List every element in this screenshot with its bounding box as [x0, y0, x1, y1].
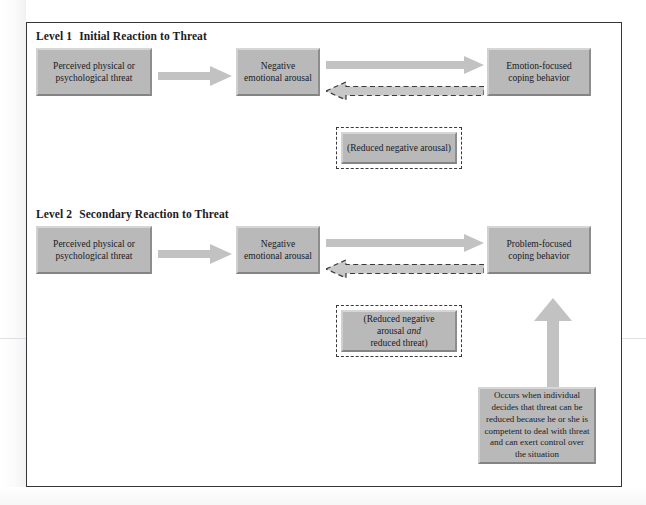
level-1-feedback-box: (Reduced negative arousal) [341, 132, 457, 164]
arrow-right-icon-level-2-forward-2 [326, 234, 484, 252]
arrow-up-icon-level-2-condition [534, 298, 572, 388]
level-2-number: Level 2 [36, 208, 72, 220]
arrow-right-icon-level-1-forward-1 [158, 66, 232, 86]
level-2-feedback-line-3: reduced threat) [370, 338, 427, 348]
scan-edge-shading-left [0, 0, 26, 505]
level-2-title: Secondary Reaction to Threat [79, 208, 229, 220]
level-2-feedback-box: (Reduced negative arousal and reduced th… [341, 310, 457, 352]
level-2-feedback-line-1: (Reduced negative [364, 314, 435, 324]
level-2-outcome-box: Problem-focused coping behavior [487, 226, 591, 274]
level-1-source-box-label: Perceived physical or psychological thre… [42, 60, 146, 84]
level-2-header: Level 2Secondary Reaction to Threat [36, 208, 229, 220]
level-1-middle-box-label: Negative emotional arousal [242, 60, 314, 84]
level-2-outcome-box-label: Problem-focused coping behavior [493, 238, 585, 262]
level-1-middle-box: Negative emotional arousal [236, 48, 320, 96]
level-2-source-box: Perceived physical or psychological thre… [36, 226, 152, 274]
scan-edge-shading-bottom [0, 487, 646, 505]
level-2-feedback-box-label: (Reduced negative arousal and reduced th… [364, 313, 435, 349]
arrow-right-icon-level-2-forward-1 [158, 244, 232, 264]
arrow-right-icon-level-1-forward-2 [326, 56, 484, 74]
level-2-source-box-label: Perceived physical or psychological thre… [42, 238, 146, 262]
level-1-header: Level 1Initial Reaction to Threat [36, 30, 207, 42]
dashed-arrow-left-icon-level-1-feedback [326, 80, 484, 102]
level-1-outcome-box-label: Emotion-focused coping behavior [493, 60, 585, 84]
figure-root: Level 1Initial Reaction to Threat Percei… [0, 0, 646, 505]
level-1-title: Initial Reaction to Threat [79, 30, 207, 42]
level-1-source-box: Perceived physical or psychological thre… [36, 48, 152, 96]
level-2-feedback-line-2-pre: arousal [377, 326, 407, 336]
level-2-condition-box-label: Occurs when individual decides that thre… [484, 390, 590, 460]
level-2-middle-box-label: Negative emotional arousal [242, 238, 314, 262]
level-2-feedback-box-outline: (Reduced negative arousal and reduced th… [336, 305, 462, 357]
level-2-feedback-line-2-emphasis: and [407, 326, 421, 336]
level-2-middle-box: Negative emotional arousal [236, 226, 320, 274]
level-1-outcome-box: Emotion-focused coping behavior [487, 48, 591, 96]
level-1-number: Level 1 [36, 30, 72, 42]
dashed-arrow-left-icon-level-2-feedback [326, 258, 484, 280]
level-1-feedback-box-outline: (Reduced negative arousal) [336, 127, 462, 169]
level-1-feedback-box-label: (Reduced negative arousal) [347, 142, 451, 154]
level-2-condition-box: Occurs when individual decides that thre… [478, 387, 596, 464]
